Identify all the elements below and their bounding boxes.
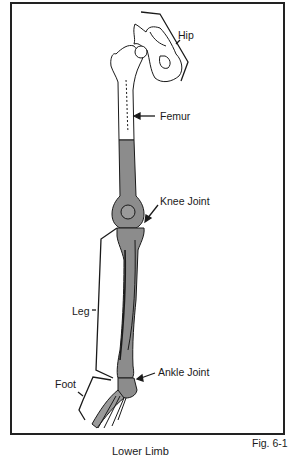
ankle-arrow — [137, 373, 155, 381]
foot-bones — [92, 378, 137, 428]
ankle-joint-label: Ankle Joint — [158, 367, 209, 378]
femur-arrow — [134, 113, 155, 119]
hip-label: Hip — [178, 30, 194, 41]
figure-number: Fig. 6-1 — [252, 437, 288, 449]
leg-label: Leg — [72, 306, 90, 317]
femur-shaded — [112, 140, 144, 228]
femur-bone — [111, 45, 147, 140]
leg-bracket — [92, 228, 117, 378]
tibia-fibula — [117, 228, 144, 378]
foot-label: Foot — [55, 379, 76, 390]
figure-caption: Lower Limb — [112, 445, 169, 457]
knee-arrow — [145, 205, 158, 222]
femur-label: Femur — [160, 111, 190, 122]
knee-joint-label: Knee Joint — [160, 196, 210, 207]
